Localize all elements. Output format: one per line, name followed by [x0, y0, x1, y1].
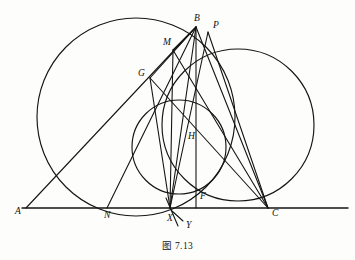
label-M: M	[162, 37, 172, 47]
segment-P-X	[170, 32, 208, 208]
label-P: P	[212, 20, 219, 30]
geometry-diagram: A B C P M G H F N X Y	[0, 0, 355, 260]
figure-caption: 图 7.13	[0, 238, 355, 252]
segment-G-C	[150, 78, 268, 208]
label-X: X	[166, 213, 174, 223]
label-H: H	[187, 131, 196, 141]
label-Y: Y	[186, 220, 193, 230]
label-B: B	[194, 13, 200, 23]
label-N: N	[103, 210, 111, 220]
label-F: F	[199, 191, 206, 201]
label-G: G	[138, 68, 145, 78]
figure-container: A B C P M G H F N X Y 图 7.13	[0, 0, 355, 260]
label-A: A	[14, 206, 21, 216]
label-C: C	[272, 208, 279, 218]
segment-M-X	[170, 50, 173, 208]
segment-B-C	[196, 27, 268, 208]
circle-right	[162, 49, 314, 201]
